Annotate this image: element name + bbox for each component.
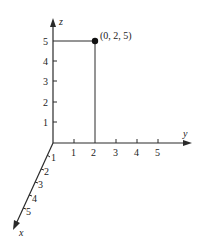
coordinate-diagram: z 1 2 3 4 5 y 1 2 3 4 5 x 1 2 3 bbox=[0, 0, 200, 245]
y-tick-3: 3 bbox=[113, 147, 118, 158]
x-tick-1: 1 bbox=[51, 152, 56, 163]
y-arrow-icon bbox=[183, 140, 192, 146]
z-axis-label: z bbox=[58, 16, 63, 27]
z-axis: z 1 2 3 4 5 bbox=[43, 16, 63, 143]
z-tick-3: 3 bbox=[43, 76, 48, 87]
z-tick-1: 1 bbox=[43, 117, 48, 128]
x-axis-label: x bbox=[18, 227, 24, 238]
point-label: (0, 2, 5) bbox=[100, 30, 132, 42]
y-tick-4: 4 bbox=[134, 147, 139, 158]
point-guides bbox=[53, 41, 95, 143]
z-arrow-icon bbox=[50, 18, 56, 27]
point-marker bbox=[92, 38, 98, 44]
x-tick-2: 2 bbox=[44, 166, 49, 177]
x-tick-3: 3 bbox=[38, 179, 43, 190]
y-axis: y 1 2 3 4 5 bbox=[53, 128, 192, 158]
y-axis-label: y bbox=[182, 128, 188, 139]
z-tick-2: 2 bbox=[43, 97, 48, 108]
x-axis: x 1 2 3 4 5 bbox=[13, 143, 56, 238]
z-tick-4: 4 bbox=[43, 56, 48, 67]
x-tick-4: 4 bbox=[32, 193, 37, 204]
y-tick-5: 5 bbox=[155, 147, 160, 158]
y-tick-2: 2 bbox=[91, 147, 96, 158]
z-tick-5: 5 bbox=[43, 36, 48, 47]
y-tick-1: 1 bbox=[71, 147, 76, 158]
x-tick-5: 5 bbox=[26, 206, 31, 217]
